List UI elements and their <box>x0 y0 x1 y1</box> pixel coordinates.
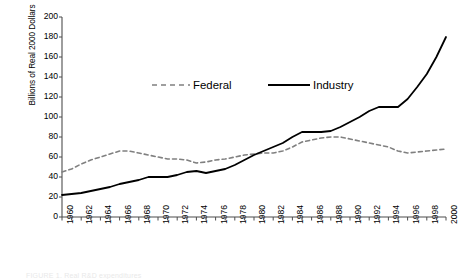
axes <box>59 17 446 221</box>
data-series <box>62 37 446 195</box>
chart-figure: 200180160140120100806040200 196019621964… <box>0 0 459 279</box>
figure-caption: FIGURE 1. Real R&D expenditures <box>26 272 142 279</box>
series-line-industry <box>62 37 446 195</box>
x-axis-ticks <box>62 217 446 221</box>
legend-label-federal: Federal <box>193 79 232 91</box>
plot-area <box>0 0 459 279</box>
legend-label-industry: Industry <box>313 79 354 91</box>
